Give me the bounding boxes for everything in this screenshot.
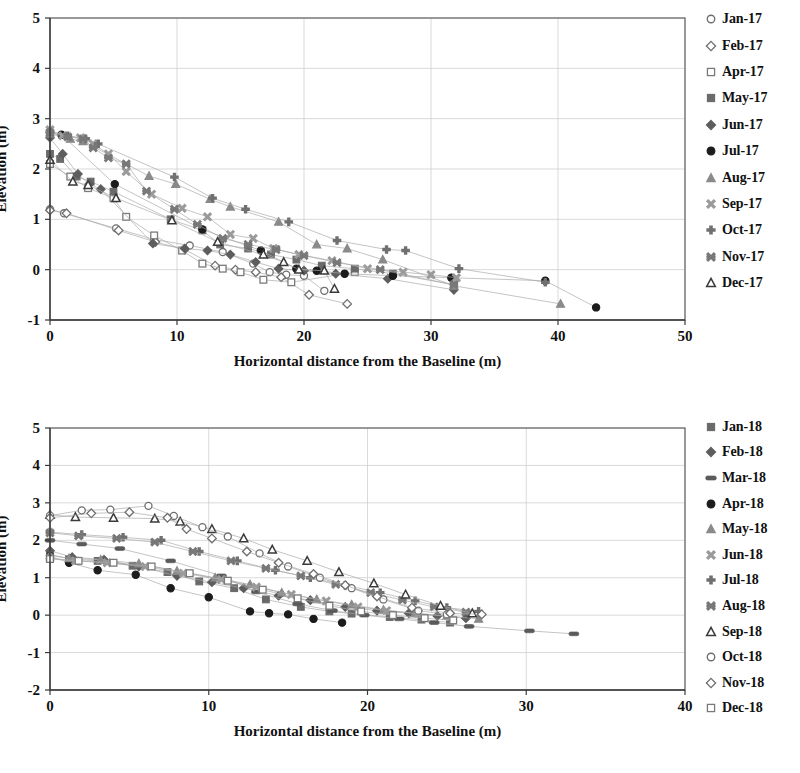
legend-label: Jul-17 [722, 143, 759, 159]
legend-item-dec-17[interactable]: Dec-17 [700, 270, 767, 296]
data-point [331, 269, 340, 278]
legend-label: Apr-18 [722, 496, 764, 512]
legend-marker-open-diamond-icon [700, 675, 722, 691]
data-point [199, 260, 206, 267]
series-line [50, 556, 342, 623]
y-axis-title: Elevation (m) [0, 515, 10, 602]
data-point [77, 542, 87, 546]
legend-item-aug-17[interactable]: Aug-17 [700, 164, 767, 190]
y-tick-label: 4 [33, 457, 41, 473]
legend-glyph [707, 627, 716, 635]
data-point [260, 276, 267, 283]
legend-marker-h-bar-icon [700, 470, 722, 486]
legend-item-oct-17[interactable]: Oct-17 [700, 217, 767, 243]
x-tick-label: 30 [424, 328, 439, 344]
data-point [123, 213, 130, 220]
legend-item-nov-18[interactable]: Nov-18 [700, 670, 767, 696]
data-point [115, 547, 125, 551]
data-point [429, 621, 439, 625]
legend-glyph [707, 653, 715, 661]
data-point [107, 506, 114, 513]
data-point [592, 304, 599, 311]
scatter-plot-2018: -2-1012345010203040Horizontal distance f… [0, 400, 800, 773]
legend-item-sep-18[interactable]: Sep-18 [700, 619, 767, 645]
legend-item-may-18[interactable]: May-18 [700, 516, 767, 542]
data-point [182, 525, 191, 534]
series-sep-17 [46, 126, 460, 281]
legend-glyph [706, 226, 715, 235]
data-point [148, 563, 155, 570]
legend-glyph [706, 678, 715, 687]
data-point [330, 284, 338, 292]
legend-item-feb-18[interactable]: Feb-18 [700, 440, 767, 466]
legend-label: Apr-17 [722, 64, 764, 80]
legend-label: Feb-17 [722, 38, 763, 54]
data-point [71, 513, 79, 521]
data-point [199, 524, 206, 531]
data-point [401, 246, 410, 255]
data-point [240, 534, 248, 542]
legend-label: Nov-18 [722, 675, 764, 691]
y-tick-label: -2 [28, 682, 41, 698]
data-point [436, 601, 444, 609]
data-point [326, 602, 333, 609]
legend-item-oct-18[interactable]: Oct-18 [700, 644, 767, 670]
gridlines [50, 428, 685, 690]
data-point [111, 180, 118, 187]
data-point [305, 291, 314, 300]
x-tick-label: 10 [201, 698, 216, 714]
legend-item-jul-17[interactable]: Jul-17 [700, 138, 767, 164]
legend-marker-open-diamond-icon [700, 38, 722, 54]
legend-item-mar-18[interactable]: Mar-18 [700, 465, 767, 491]
data-point [110, 559, 117, 566]
data-point [464, 624, 474, 628]
data-point [112, 535, 121, 542]
y-tick-label: 5 [33, 10, 41, 26]
y-tick-label: 1 [33, 211, 41, 227]
y-tick-label: 2 [33, 161, 41, 177]
y-tick-label: 1 [33, 570, 41, 586]
scatter-plot-2017: -101234501020304050Horizontal distance f… [0, 0, 800, 400]
data-point [166, 559, 176, 563]
data-point [263, 596, 270, 603]
data-point [313, 240, 321, 248]
legend-item-may-17[interactable]: May-17 [700, 85, 767, 111]
legend-item-jul-18[interactable]: Jul-18 [700, 568, 767, 594]
legend-item-apr-17[interactable]: Apr-17 [700, 59, 767, 85]
legend-glyph [707, 525, 716, 533]
legend-2017: Jan-17Feb-17Apr-17May-17Jun-17Jul-17Aug-… [700, 6, 767, 296]
legend-item-feb-17[interactable]: Feb-17 [700, 32, 767, 58]
data-point [370, 579, 378, 587]
legend-marker-filled-circle-icon [700, 143, 722, 159]
legend-item-jan-18[interactable]: Jan-18 [700, 414, 767, 440]
x-tick-label: 0 [46, 698, 54, 714]
legend-item-apr-18[interactable]: Apr-18 [700, 491, 767, 517]
x-tick-label: 10 [170, 328, 185, 344]
legend-label: Aug-17 [722, 170, 765, 186]
legend-item-jan-17[interactable]: Jan-17 [700, 6, 767, 32]
data-point [569, 632, 579, 636]
plot-area-2017: -101234501020304050Horizontal distance f… [0, 0, 800, 400]
data-point [203, 246, 212, 255]
legend-item-sep-17[interactable]: Sep-17 [700, 191, 767, 217]
data-point [167, 585, 174, 592]
legend-item-dec-18[interactable]: Dec-18 [700, 696, 767, 722]
data-point [274, 558, 283, 567]
legend-item-nov-17[interactable]: Nov-17 [700, 244, 767, 270]
legend-marker-filled-square-icon [700, 90, 722, 106]
legend-marker-filled-square-icon [700, 419, 722, 435]
x-tick-label: 50 [678, 328, 693, 344]
data-point [390, 612, 397, 619]
data-point [170, 206, 179, 213]
y-tick-label: 3 [33, 111, 41, 127]
data-point [333, 259, 342, 266]
legend-item-jun-17[interactable]: Jun-17 [700, 112, 767, 138]
legend-item-jun-18[interactable]: Jun-18 [700, 542, 767, 568]
x-axis-title: Horizontal distance from the Baseline (m… [234, 723, 502, 740]
data-point [341, 270, 348, 277]
data-point [335, 568, 343, 576]
legend-marker-open-square-icon [700, 64, 722, 80]
legend-marker-x-cross-icon [700, 196, 722, 212]
legend-item-aug-18[interactable]: Aug-18 [700, 593, 767, 619]
legend-glyph [706, 253, 715, 261]
